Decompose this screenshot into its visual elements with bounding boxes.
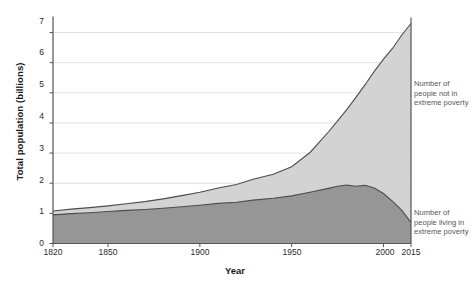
legend-label-not-in-poverty: Number of people not in extreme poverty [414,79,474,108]
legend-lower-line-2: people living in [414,218,474,228]
legend-label-in-poverty: Number of people living in extreme pover… [414,208,474,237]
legend-upper-line-1: Number of [414,79,474,89]
legend-lower-line-3: extreme poverty [414,227,474,237]
legend-upper-line-2: people not in [414,89,474,99]
data-areas [53,24,411,244]
plot-area [0,0,474,283]
legend-upper-line-3: extreme poverty [414,98,474,108]
chart-figure: Total population (billions) Year 7 6 5 4… [0,0,474,283]
legend-lower-line-1: Number of [414,208,474,218]
